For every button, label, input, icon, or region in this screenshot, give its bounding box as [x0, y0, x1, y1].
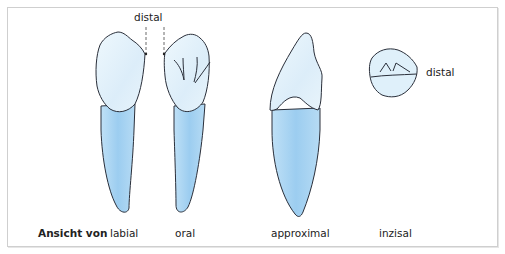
incisal-outline: [369, 49, 417, 97]
root-labial: [101, 104, 135, 212]
crown-approximal: [270, 33, 322, 110]
root-approximal: [272, 108, 320, 216]
caption-prefix: Ansicht von: [38, 227, 107, 239]
distal-pointer-lines: [145, 27, 165, 55]
annotation-distal-right: distal: [426, 66, 455, 78]
crown-labial: [96, 32, 145, 112]
caption-view-oral: oral: [175, 227, 195, 239]
annotation-distal-top: distal: [134, 11, 163, 23]
root-oral: [174, 104, 205, 212]
caption-view-approximal: approximal: [271, 227, 330, 239]
tooth-incisal-view: [369, 49, 417, 97]
tooth-illustration: [0, 0, 505, 254]
tooth-approximal-view: [270, 33, 322, 216]
caption-view-labial: labial: [110, 227, 138, 239]
tooth-oral-view: [164, 34, 210, 212]
tooth-labial-view: [96, 32, 145, 212]
caption-view-inzisal: inzisal: [379, 227, 412, 239]
